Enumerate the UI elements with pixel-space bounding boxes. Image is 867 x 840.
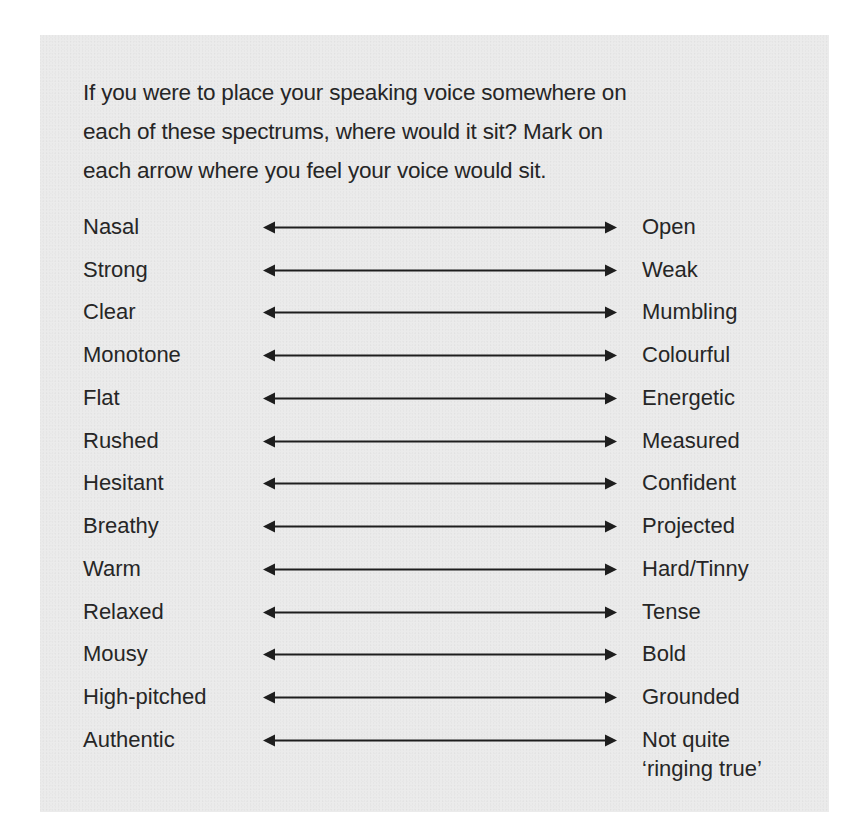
spectrum-left-label: Breathy [83,511,159,541]
spectrum-left-label: Mousy [83,639,148,669]
double-arrow-icon[interactable] [263,477,617,490]
spectrum-right-label: Projected [642,511,735,541]
spectrum-right-label-line1: Not quite [642,727,730,752]
spectrum-row-hesitant-confident: Hesitant Confident [40,468,829,498]
spectrum-row-breathy-projected: Breathy Projected [40,511,829,541]
spectrum-right-label: Open [642,212,696,242]
double-arrow-icon[interactable] [263,606,617,619]
exercise-panel: If you were to place your speaking voice… [40,35,829,812]
double-arrow-icon[interactable] [263,520,617,533]
spectrum-row-flat-energetic: Flat Energetic [40,383,829,413]
spectrum-right-label: Tense [642,597,701,627]
double-arrow-icon[interactable] [263,264,617,277]
double-arrow-icon[interactable] [263,435,617,448]
double-arrow-icon[interactable] [263,221,617,234]
spectrum-right-label: Confident [642,468,736,498]
spectrum-row-mousy-bold: Mousy Bold [40,639,829,669]
spectrum-row-authentic-not-quite-ringing-true: Authentic Not quite ‘ringing true’ [40,725,829,785]
spectrum-right-label: Hard/Tinny [642,554,749,584]
double-arrow-icon[interactable] [263,306,617,319]
spectrum-right-label: Energetic [642,383,735,413]
spectrum-right-label: Weak [642,255,698,285]
spectrum-right-label: Mumbling [642,297,737,327]
spectrum-row-clear-mumbling: Clear Mumbling [40,297,829,327]
spectrum-left-label: Monotone [83,340,181,370]
spectrum-list: Nasal Open Strong Weak Clear Mumbling Mo… [40,35,829,812]
spectrum-right-label: Colourful [642,340,730,370]
double-arrow-icon[interactable] [263,648,617,661]
spectrum-row-warm-hard-tinny: Warm Hard/Tinny [40,554,829,584]
spectrum-row-relaxed-tense: Relaxed Tense [40,597,829,627]
spectrum-left-label: Nasal [83,212,139,242]
double-arrow-icon[interactable] [263,563,617,576]
spectrum-row-rushed-measured: Rushed Measured [40,426,829,456]
spectrum-left-label: Hesitant [83,468,164,498]
double-arrow-icon[interactable] [263,734,617,747]
spectrum-left-label: Flat [83,383,120,413]
spectrum-row-strong-weak: Strong Weak [40,255,829,285]
double-arrow-icon[interactable] [263,349,617,362]
spectrum-right-label-line2: ‘ringing true’ [642,755,762,783]
spectrum-left-label: Strong [83,255,148,285]
spectrum-left-label: High-pitched [83,682,207,712]
double-arrow-icon[interactable] [263,392,617,405]
spectrum-left-label: Authentic [83,725,175,755]
spectrum-right-label: Grounded [642,682,740,712]
spectrum-left-label: Rushed [83,426,159,456]
spectrum-left-label: Relaxed [83,597,164,627]
spectrum-right-label: Measured [642,426,740,456]
spectrum-left-label: Clear [83,297,136,327]
spectrum-left-label: Warm [83,554,141,584]
spectrum-row-high-pitched-grounded: High-pitched Grounded [40,682,829,712]
spectrum-right-label: Bold [642,639,686,669]
spectrum-right-label: Not quite ‘ringing true’ [642,725,762,783]
spectrum-row-nasal-open: Nasal Open [40,212,829,242]
double-arrow-icon[interactable] [263,691,617,704]
spectrum-row-monotone-colourful: Monotone Colourful [40,340,829,370]
